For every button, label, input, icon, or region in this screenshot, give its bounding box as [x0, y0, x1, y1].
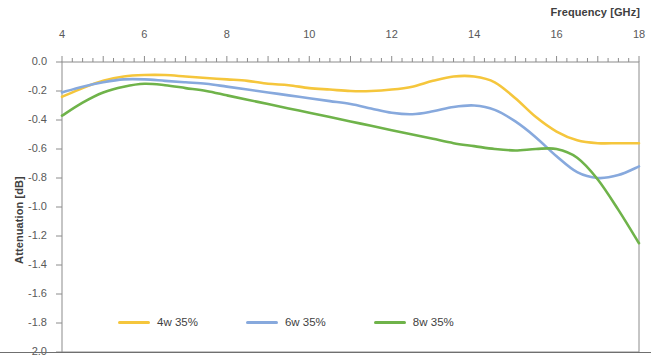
legend-swatch-icon — [374, 321, 406, 324]
bottom-divider — [0, 352, 651, 353]
plot-canvas — [0, 0, 651, 358]
series-line-4w-35- — [62, 75, 639, 144]
legend-label: 4w 35% — [157, 316, 198, 328]
plot-frame — [62, 62, 639, 352]
legend-label: 6w 35% — [285, 316, 326, 328]
legend-swatch-icon — [246, 321, 278, 324]
series-line-8w-35- — [62, 84, 639, 244]
legend-label: 8w 35% — [413, 316, 454, 328]
attenuation-vs-frequency-chart: Frequency [GHz] Attenuation [dB] 4681012… — [0, 0, 651, 358]
chart-legend: 4w 35%6w 35%8w 35% — [118, 312, 518, 332]
legend-item-6w-35-[interactable]: 6w 35% — [246, 316, 326, 328]
legend-item-4w-35-[interactable]: 4w 35% — [118, 316, 198, 328]
legend-item-8w-35-[interactable]: 8w 35% — [374, 316, 454, 328]
legend-swatch-icon — [118, 321, 150, 324]
